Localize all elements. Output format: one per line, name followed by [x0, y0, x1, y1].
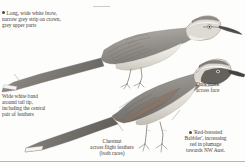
chestnut-wing-callout: Chestnut across flight feathers (both ra… — [68, 132, 156, 156]
brow-callout-text: Long, wide white brow, narrow grey strip… — [2, 10, 61, 28]
babbler-illustration-plate: Long, wide white brow, narrow grey strip… — [0, 0, 245, 167]
page-divider-rule — [0, 161, 245, 162]
brow-callout: Long, wide white brow, narrow grey strip… — [2, 4, 94, 28]
dark-mask-callout: Dark mask across face — [196, 75, 244, 93]
tail-band-callout: Wide white band around tail tip, includi… — [2, 87, 74, 117]
chestnut-wing-callout-text: Chestnut across flight feathers (both ra… — [90, 138, 134, 156]
red-breasted-race-callout: 'Red-breasted Babbler', increasing red i… — [166, 123, 245, 153]
bullet-point-icon — [189, 131, 192, 134]
tail-band-callout-text: Wide white band around tail tip, includi… — [2, 93, 45, 117]
dark-mask-callout-text: Dark mask across face — [196, 81, 219, 93]
bullet-point-icon — [2, 11, 5, 14]
